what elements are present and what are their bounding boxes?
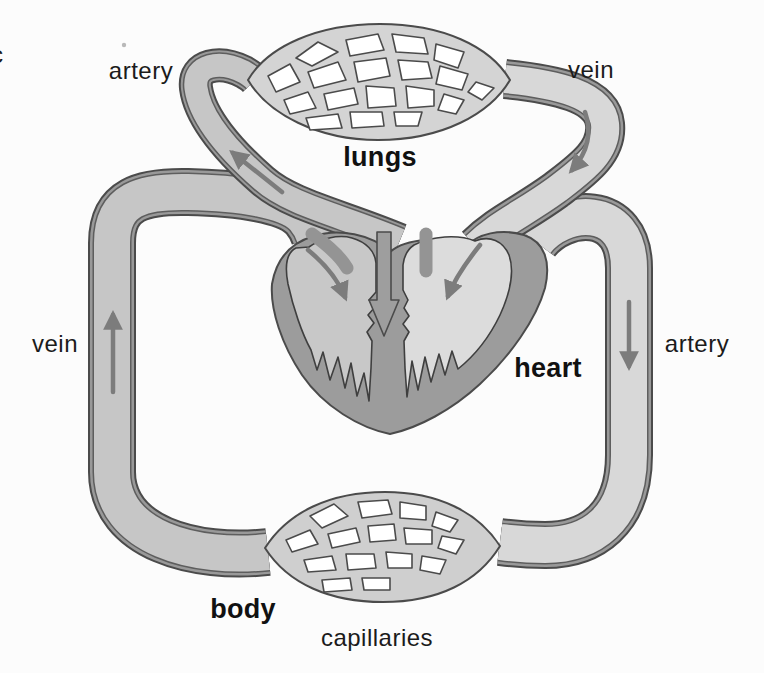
pulmonary-artery-label: artery (109, 57, 173, 84)
circulation-figure: c artery vein lungs vein artery heart bo… (0, 0, 764, 673)
body-label: body (210, 594, 276, 624)
scan-speck (122, 43, 126, 47)
lungs-label: lungs (343, 142, 417, 172)
systemic-artery-label: artery (665, 330, 729, 357)
systemic-vein-label: vein (32, 330, 78, 357)
heart-label: heart (514, 353, 582, 383)
pulmonary-vein-label: vein (568, 56, 614, 83)
capillaries-label: capillaries (321, 624, 433, 651)
circulation-diagram: c artery vein lungs vein artery heart bo… (0, 0, 764, 673)
panel-letter: c (0, 41, 4, 68)
